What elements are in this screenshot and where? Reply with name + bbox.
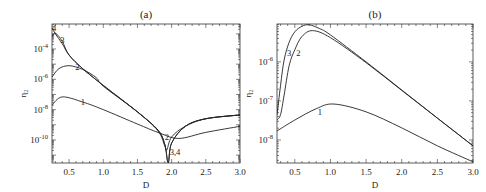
chart-title: (a) xyxy=(140,8,153,21)
x-axis-label: D xyxy=(143,180,150,190)
curve-label: 2 xyxy=(296,48,300,58)
y-tick-label: 10-8 xyxy=(259,133,273,145)
x-tick-label: 2.5 xyxy=(432,167,444,177)
y-axis-label: η₂ xyxy=(18,90,28,98)
figure: (a)0.51.01.52.02.53.0D10-410-610-810-10η… xyxy=(0,0,486,192)
x-tick-label: 3.0 xyxy=(234,167,246,177)
x-tick-label: 3.0 xyxy=(467,167,479,177)
series-line-2 xyxy=(52,66,240,151)
curve-label: 1 xyxy=(81,97,85,107)
x-tick-label: 0.5 xyxy=(289,167,301,177)
curve-label: 2 xyxy=(75,62,79,72)
curve-label: 1 xyxy=(318,107,322,117)
series-line-2 xyxy=(277,31,473,146)
x-tick-label: 0.5 xyxy=(63,167,75,177)
plot-frame xyxy=(277,24,473,163)
series-line-3 xyxy=(277,25,473,146)
x-tick-label: 1.5 xyxy=(360,167,372,177)
curve-label: 4 xyxy=(52,23,57,33)
x-tick-label: 2.0 xyxy=(166,167,178,177)
series-line-1 xyxy=(277,104,473,162)
x-tick-label: 2.5 xyxy=(200,167,212,177)
y-tick-label: 10-7 xyxy=(259,94,274,106)
y-tick-label: 10-6 xyxy=(34,72,49,84)
curve-label: 3 xyxy=(60,35,64,45)
series-line-4 xyxy=(52,28,240,163)
x-tick-label: 1.0 xyxy=(325,167,337,177)
x-tick-label: 2.0 xyxy=(396,167,408,177)
panel-a: (a)0.51.01.52.02.53.0D10-410-610-810-10η… xyxy=(18,8,246,190)
y-tick-label: 10-4 xyxy=(34,42,49,54)
y-tick-label: 10-8 xyxy=(34,103,48,115)
x-axis-label: D xyxy=(372,180,379,190)
curve-label: 3 xyxy=(287,48,291,58)
x-tick-label: 1.5 xyxy=(132,167,144,177)
panel-b: (b)0.51.01.52.02.53.0D10-610-710-8η₂321 xyxy=(243,8,479,190)
chart-title: (b) xyxy=(369,8,382,21)
y-axis-label: η₂ xyxy=(243,90,253,98)
plot-frame xyxy=(52,24,240,163)
curve-label: 2 xyxy=(165,132,169,142)
y-tick-label: 10-10 xyxy=(30,133,48,145)
x-tick-label: 1.0 xyxy=(98,167,110,177)
curve-label: 3,4 xyxy=(170,147,181,157)
y-tick-label: 10-6 xyxy=(259,55,274,67)
